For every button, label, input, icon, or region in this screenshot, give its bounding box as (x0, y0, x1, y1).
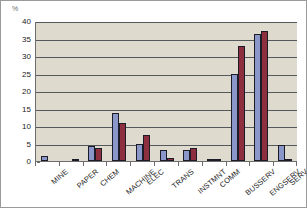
y-axis-tick-label: 10 (7, 123, 31, 131)
bar-chart: % 4035302520151050 MINEPAPERCHEMMACHINEE… (0, 0, 307, 208)
bar (41, 156, 48, 161)
y-axis-tick-label: 15 (7, 106, 31, 114)
plot-area (35, 22, 297, 162)
x-axis-category-labels: MINEPAPERCHEMMACHINEELECTRANSINSTMNTCOMM… (35, 165, 297, 208)
bar (261, 31, 268, 161)
bar (167, 158, 174, 161)
bar-group (83, 22, 107, 161)
y-axis-tick-label: 0 (7, 158, 31, 166)
y-axis-tick-labels: 4035302520151050 (5, 22, 31, 162)
bar (88, 146, 95, 161)
bar-group (273, 22, 297, 161)
bar (231, 74, 238, 162)
bar (214, 159, 221, 161)
y-axis-tick-label: 20 (7, 88, 31, 96)
y-axis-tick-label: 40 (7, 18, 31, 26)
bar (278, 145, 285, 161)
x-axis-category-label: MINE (49, 167, 69, 186)
bar (72, 159, 79, 161)
x-axis-category-label: TRANS (170, 167, 196, 191)
bar (238, 46, 245, 162)
bar-group (178, 22, 202, 161)
bar-group (36, 22, 60, 161)
bar (183, 150, 190, 161)
x-axis-category-label: CHEM (98, 167, 121, 188)
bar-group (250, 22, 274, 161)
y-axis-tick-label: 5 (7, 141, 31, 149)
bar-group (155, 22, 179, 161)
bar-group (226, 22, 250, 161)
bar (207, 159, 214, 161)
y-axis-unit-label: % (12, 5, 18, 12)
bar (143, 135, 150, 161)
y-axis-tick-label: 30 (7, 53, 31, 61)
bar (112, 113, 119, 161)
bar-group (107, 22, 131, 161)
bar (136, 144, 143, 161)
bar (95, 148, 102, 161)
bar-groups (36, 22, 297, 161)
y-axis-tick-label: 25 (7, 71, 31, 79)
y-axis-tick-label: 35 (7, 36, 31, 44)
bar (190, 148, 197, 161)
bar (254, 34, 261, 161)
x-axis-category-label: PAPER (75, 167, 100, 190)
bar-group (202, 22, 226, 161)
bar-group (131, 22, 155, 161)
bar (285, 159, 292, 161)
bar (160, 150, 167, 161)
bar (119, 123, 126, 161)
bar-group (60, 22, 84, 161)
